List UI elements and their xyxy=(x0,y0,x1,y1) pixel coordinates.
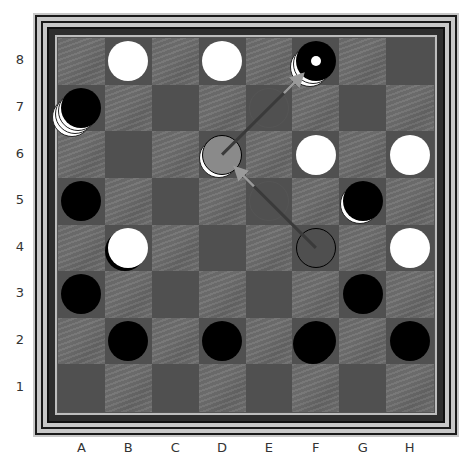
square-B6[interactable] xyxy=(105,131,152,178)
row-label-1: 1 xyxy=(10,379,30,394)
column-label-E: E xyxy=(259,440,279,455)
white-piece[interactable] xyxy=(390,228,430,268)
selected-dot-icon xyxy=(311,56,321,66)
black-piece[interactable] xyxy=(296,41,336,81)
square-D4[interactable] xyxy=(199,225,246,272)
white-piece[interactable] xyxy=(390,135,430,175)
square-G8[interactable] xyxy=(339,38,386,85)
square-G6[interactable] xyxy=(339,131,386,178)
square-B7[interactable] xyxy=(105,85,152,132)
column-label-C: C xyxy=(165,440,185,455)
square-E3[interactable] xyxy=(246,271,293,318)
square-H8[interactable] xyxy=(386,38,433,85)
black-piece[interactable] xyxy=(343,181,383,221)
outline-piece[interactable] xyxy=(296,228,336,268)
black-piece[interactable] xyxy=(343,274,383,314)
gray-piece[interactable] xyxy=(202,135,242,175)
square-C5[interactable] xyxy=(152,178,199,225)
column-label-D: D xyxy=(212,440,232,455)
square-G1[interactable] xyxy=(339,364,386,411)
square-H3[interactable] xyxy=(386,271,433,318)
square-C4[interactable] xyxy=(152,225,199,272)
square-H5[interactable] xyxy=(386,178,433,225)
square-G2[interactable] xyxy=(339,318,386,365)
square-E8[interactable] xyxy=(246,38,293,85)
row-label-4: 4 xyxy=(10,239,30,254)
square-F3[interactable] xyxy=(292,271,339,318)
square-D1[interactable] xyxy=(199,364,246,411)
row-label-5: 5 xyxy=(10,192,30,207)
square-E6[interactable] xyxy=(246,131,293,178)
square-C3[interactable] xyxy=(152,271,199,318)
row-label-2: 2 xyxy=(10,332,30,347)
ghost-piece-E7 xyxy=(249,88,289,128)
black-piece[interactable] xyxy=(390,321,430,361)
square-G4[interactable] xyxy=(339,225,386,272)
square-D7[interactable] xyxy=(199,85,246,132)
square-C6[interactable] xyxy=(152,131,199,178)
square-F5[interactable] xyxy=(292,178,339,225)
square-E2[interactable] xyxy=(246,318,293,365)
square-H1[interactable] xyxy=(386,364,433,411)
column-label-A: A xyxy=(71,440,91,455)
black-piece[interactable] xyxy=(202,321,242,361)
column-label-H: H xyxy=(400,440,420,455)
square-F1[interactable] xyxy=(292,364,339,411)
square-H7[interactable] xyxy=(386,85,433,132)
square-C7[interactable] xyxy=(152,85,199,132)
square-C1[interactable] xyxy=(152,364,199,411)
square-B1[interactable] xyxy=(105,364,152,411)
square-E4[interactable] xyxy=(246,225,293,272)
row-label-7: 7 xyxy=(10,99,30,114)
column-label-G: G xyxy=(353,440,373,455)
square-B3[interactable] xyxy=(105,271,152,318)
square-D5[interactable] xyxy=(199,178,246,225)
row-label-6: 6 xyxy=(10,146,30,161)
square-A6[interactable] xyxy=(58,131,105,178)
black-piece[interactable] xyxy=(296,321,336,361)
square-A1[interactable] xyxy=(58,364,105,411)
square-C8[interactable] xyxy=(152,38,199,85)
square-B5[interactable] xyxy=(105,178,152,225)
square-F7[interactable] xyxy=(292,85,339,132)
square-E1[interactable] xyxy=(246,364,293,411)
square-C2[interactable] xyxy=(152,318,199,365)
column-label-F: F xyxy=(306,440,326,455)
square-A8[interactable] xyxy=(58,38,105,85)
row-label-3: 3 xyxy=(10,285,30,300)
row-label-8: 8 xyxy=(10,52,30,67)
square-A4[interactable] xyxy=(58,225,105,272)
white-piece[interactable] xyxy=(108,228,148,268)
ghost-piece-E5 xyxy=(249,181,289,221)
square-G7[interactable] xyxy=(339,85,386,132)
white-piece[interactable] xyxy=(296,135,336,175)
square-D3[interactable] xyxy=(199,271,246,318)
column-label-B: B xyxy=(118,440,138,455)
square-A2[interactable] xyxy=(58,318,105,365)
